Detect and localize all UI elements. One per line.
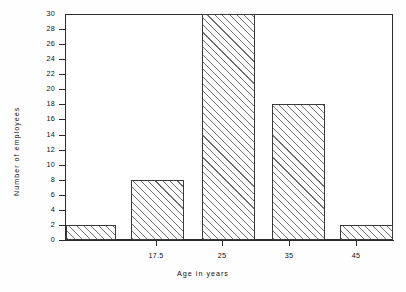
x-axis-tick-label: 35 — [285, 252, 293, 259]
y-axis-tick — [59, 119, 65, 120]
y-axis-tick — [59, 150, 65, 151]
y-axis-tick — [59, 210, 65, 211]
y-axis-tick — [59, 180, 65, 181]
bar — [340, 225, 393, 240]
y-axis-title: Number of employees — [13, 186, 20, 196]
x-axis-line — [65, 240, 394, 241]
y-axis-tick-label: 12 — [29, 146, 55, 153]
bar-series — [65, 14, 393, 240]
x-axis-tick-label: 25 — [218, 252, 226, 259]
y-axis-tick-label: 16 — [29, 115, 55, 122]
x-axis-tick-label: 17.5 — [149, 252, 164, 259]
y-axis-tick — [59, 225, 65, 226]
y-axis-tick-label: 10 — [29, 161, 55, 168]
y-axis-tick-label: 6 — [29, 191, 55, 198]
histogram-chart: 024681012141618202224262830 17.525354555… — [0, 0, 406, 292]
x-axis-tick — [156, 241, 157, 246]
y-axis-tick — [59, 135, 65, 136]
x-axis-tick — [356, 241, 357, 246]
bar — [272, 104, 325, 240]
y-axis-tick-label: 14 — [29, 131, 55, 138]
x-axis-title: Age in years — [0, 270, 406, 277]
x-axis-tick — [289, 241, 290, 246]
y-axis-tick — [59, 104, 65, 105]
bar — [202, 14, 255, 240]
x-axis-tick — [222, 241, 223, 246]
y-axis-tick-label: 24 — [29, 55, 55, 62]
y-axis-tick-label: 4 — [29, 206, 55, 213]
y-axis-tick — [59, 44, 65, 45]
y-axis-tick-label: 0 — [29, 236, 55, 243]
bar — [66, 225, 116, 240]
y-axis-tick-label: 20 — [29, 85, 55, 92]
y-axis-tick — [59, 165, 65, 166]
bar — [131, 180, 184, 240]
y-axis-tick — [59, 29, 65, 30]
y-axis-tick-label: 26 — [29, 40, 55, 47]
y-axis-tick — [59, 89, 65, 90]
y-axis-tick — [59, 195, 65, 196]
y-axis-tick — [59, 59, 65, 60]
y-axis-line — [65, 14, 66, 241]
x-axis-tick-label: 45 — [352, 252, 360, 259]
y-axis-tick-label: 8 — [29, 176, 55, 183]
y-axis-tick-label: 22 — [29, 70, 55, 77]
y-axis-tick-label: 30 — [29, 10, 55, 17]
y-axis-tick-label: 2 — [29, 221, 55, 228]
y-axis-tick — [59, 74, 65, 75]
y-axis-tick-label: 18 — [29, 100, 55, 107]
y-axis-tick-label: 28 — [29, 25, 55, 32]
